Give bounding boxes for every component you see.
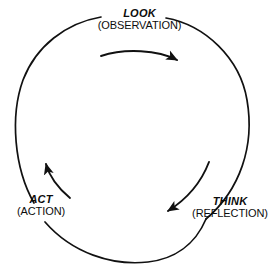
node-label-look: LOOK (OBSERVATION) — [0, 8, 279, 32]
node-subtitle-think: (REFLECTION) — [182, 208, 278, 220]
node-subtitle-act: (ACTION) — [2, 206, 80, 218]
action-research-cycle-diagram: LOOK (OBSERVATION) THINK (REFLECTION) AC… — [0, 0, 279, 274]
outer-arc-right — [166, 18, 249, 219]
flow-arrows-group — [46, 51, 209, 211]
cycle-graphic — [0, 0, 279, 274]
outer-arc-left — [15, 17, 101, 203]
node-label-think: THINK (REFLECTION) — [182, 196, 278, 220]
outer-arc-bottom — [45, 219, 206, 263]
outer-circle-arc-group — [15, 17, 249, 263]
node-label-act: ACT (ACTION) — [2, 194, 80, 218]
arrow-look-to-think — [101, 51, 177, 60]
node-subtitle-look: (OBSERVATION) — [0, 20, 279, 32]
